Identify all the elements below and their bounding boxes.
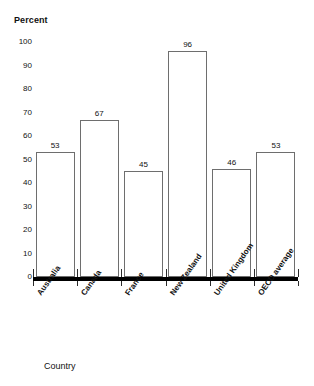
y-axis-tick-label: 100 (8, 38, 32, 46)
bar-united-kingdom (212, 169, 251, 277)
x-axis-tick (298, 269, 299, 277)
y-axis-tick-label: 90 (8, 62, 32, 70)
x-axis-title: Country (44, 361, 76, 371)
x-axis-tick (166, 269, 167, 277)
x-axis-tick (77, 281, 78, 286)
x-axis-tick (77, 269, 78, 277)
bar-value-label: 67 (80, 109, 119, 118)
bar-canada (80, 120, 119, 277)
y-axis-tick-label: 60 (8, 132, 32, 140)
x-axis-tick (254, 269, 255, 277)
y-axis-tick-label: 20 (8, 226, 32, 234)
y-axis-tick-label: 40 (8, 179, 32, 187)
x-axis-tick (210, 269, 211, 277)
plot-area: 1009080706050403020100536745964653 (0, 0, 314, 386)
x-axis-tick (298, 281, 299, 286)
y-axis-tick-label: 10 (8, 250, 32, 258)
bar-france (124, 171, 163, 277)
y-axis-tick-label: 0 (8, 273, 32, 281)
x-axis-tick (121, 269, 122, 277)
x-axis-tick (210, 281, 211, 286)
bar-value-label: 46 (212, 158, 251, 167)
y-axis-tick-label: 70 (8, 109, 32, 117)
x-axis-tick (33, 269, 34, 277)
bar-australia (36, 152, 75, 277)
bar-value-label: 53 (36, 141, 75, 150)
bar-value-label: 53 (256, 141, 295, 150)
x-axis-tick (33, 281, 34, 286)
x-axis-tick (121, 281, 122, 286)
bar-value-label: 96 (168, 40, 207, 49)
y-axis-tick-label: 80 (8, 85, 32, 93)
x-axis-tick (254, 281, 255, 286)
bar-new-zealand (168, 51, 207, 277)
y-axis-tick-label: 30 (8, 203, 32, 211)
x-axis-tick (166, 281, 167, 286)
bar-chart: Percent 10090807060504030201005367459646… (0, 0, 314, 386)
bar-value-label: 45 (124, 160, 163, 169)
y-axis-tick-label: 50 (8, 156, 32, 164)
